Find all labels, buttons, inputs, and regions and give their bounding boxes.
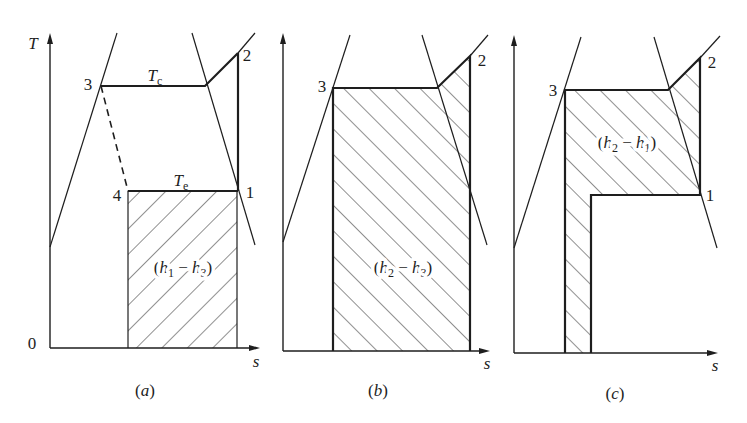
ts-diagram-canvas: T0s3214TcTe(h1 − h3)(a)s32(h2 − h3)(b)s3…	[0, 0, 747, 423]
label-text: 2	[478, 51, 487, 70]
condensing-temperature-label: Tc	[148, 66, 163, 88]
label-text: h	[412, 258, 421, 277]
state-4-label: 4	[113, 186, 122, 205]
origin-label: 0	[28, 334, 37, 353]
entropy-axis-label: s	[253, 352, 260, 371]
label-text: s	[253, 352, 260, 371]
state-1-label: 1	[246, 183, 255, 202]
saturated-liquid-line	[50, 33, 117, 247]
compressor-work-area	[565, 58, 700, 353]
label-text: 0	[28, 334, 37, 353]
state-2-label: 2	[243, 46, 252, 65]
ts-diagram-figure: T0s3214TcTe(h1 − h3)(a)s32(h2 − h3)(b)s3…	[0, 0, 747, 423]
axis-arrow-up-icon	[280, 33, 286, 44]
label-text: 3	[318, 77, 327, 96]
label-text: h	[603, 133, 612, 152]
panel-caption: (a)	[135, 381, 155, 400]
state-3-label: 3	[318, 77, 327, 96]
label-text: )	[382, 381, 388, 400]
label-text: 1	[246, 183, 255, 202]
label-text: 4	[113, 186, 122, 205]
label-text: b	[374, 381, 383, 400]
label-text: −	[618, 133, 636, 152]
panel-a: T0s3214TcTe(h1 − h3)(a)	[28, 33, 260, 400]
state-2-label: 2	[708, 53, 717, 72]
label-text: −	[174, 258, 192, 277]
label-text: c	[157, 74, 162, 88]
label-text: )	[651, 133, 657, 152]
axis-arrow-up-icon	[511, 35, 517, 46]
label-text: s	[712, 356, 719, 375]
throttling-line	[101, 86, 128, 191]
label-text: e	[183, 179, 188, 193]
state-3-label: 3	[549, 81, 558, 100]
state-1-label: 1	[706, 186, 715, 205]
label-text: 3	[84, 75, 93, 94]
temperature-axis-label: T	[28, 34, 39, 53]
label-text: 2	[243, 46, 252, 65]
panel-c: s321(h2 − h1)(c)	[511, 35, 720, 403]
label-text: s	[484, 354, 491, 373]
panel-caption: (b)	[368, 381, 388, 400]
axis-arrow-right-icon	[249, 345, 260, 351]
label-text: h	[636, 133, 645, 152]
state-2-label: 2	[478, 51, 487, 70]
label-text: h	[379, 258, 388, 277]
label-text: 1	[706, 186, 715, 205]
label-text: a	[141, 381, 150, 400]
label-text: −	[394, 258, 412, 277]
axis-arrow-up-icon	[47, 33, 53, 44]
label-text: h	[159, 258, 168, 277]
label-text: T	[28, 34, 39, 53]
condenser-heat-area	[333, 56, 470, 351]
condensation-line	[101, 53, 238, 86]
label-text: )	[149, 381, 155, 400]
label-text: 3	[549, 81, 558, 100]
panel-caption: (c)	[606, 384, 625, 403]
label-text: h	[192, 258, 201, 277]
entropy-axis-label: s	[712, 356, 719, 375]
label-text: )	[427, 258, 433, 277]
state-3-label: 3	[84, 75, 93, 94]
label-text: )	[207, 258, 213, 277]
label-text: )	[619, 384, 625, 403]
panel-b: s32(h2 − h3)(b)	[280, 33, 491, 400]
entropy-axis-label: s	[484, 354, 491, 373]
evaporating-temperature-label: Te	[174, 171, 189, 193]
label-text: 2	[708, 53, 717, 72]
